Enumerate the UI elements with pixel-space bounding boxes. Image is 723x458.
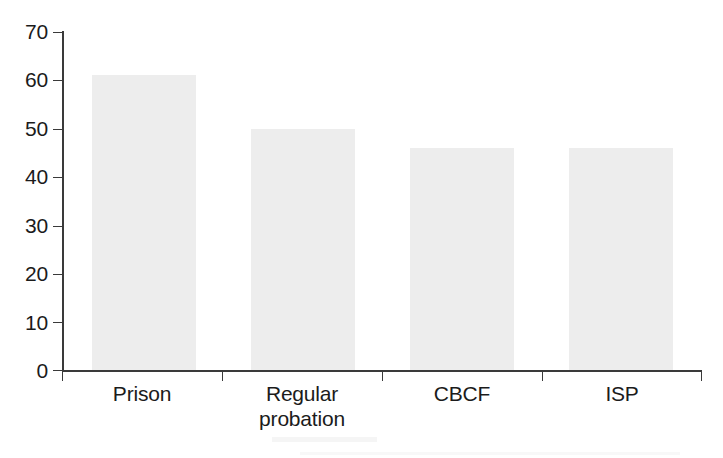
bar-chart-figure: 70 60 50 40 30 20 10 0 Prison Regular pr… bbox=[0, 0, 723, 458]
scan-artifact-2 bbox=[300, 452, 680, 455]
x-tick-mark-4 bbox=[701, 370, 702, 381]
x-tick-mark-3 bbox=[542, 370, 543, 381]
y-tick-label-0: 0 bbox=[4, 360, 48, 381]
scan-artifact-1 bbox=[272, 437, 377, 442]
x-tick-mark-0 bbox=[62, 370, 63, 381]
x-label-isp: ISP bbox=[542, 382, 702, 407]
x-label-regular-probation-line-2: probation bbox=[222, 407, 382, 432]
bar-isp bbox=[569, 148, 673, 370]
x-label-cbcf-line-1: CBCF bbox=[382, 382, 542, 407]
x-tick-mark-1 bbox=[222, 370, 223, 381]
x-tick-mark-2 bbox=[382, 370, 383, 381]
y-tick-label-30: 30 bbox=[4, 215, 48, 236]
x-label-prison-line-1: Prison bbox=[62, 382, 222, 407]
x-label-prison: Prison bbox=[62, 382, 222, 407]
y-tick-label-20: 20 bbox=[4, 263, 48, 284]
x-label-cbcf: CBCF bbox=[382, 382, 542, 407]
x-label-regular-probation: Regular probation bbox=[222, 382, 382, 432]
x-label-regular-probation-line-1: Regular bbox=[222, 382, 382, 407]
y-tick-label-60: 60 bbox=[4, 69, 48, 90]
bar-cbcf bbox=[410, 148, 514, 370]
bar-prison bbox=[92, 75, 196, 370]
x-label-isp-line-1: ISP bbox=[542, 382, 702, 407]
plot-area bbox=[62, 32, 702, 370]
y-tick-label-50: 50 bbox=[4, 118, 48, 139]
y-tick-label-40: 40 bbox=[4, 166, 48, 187]
y-tick-label-10: 10 bbox=[4, 312, 48, 333]
y-tick-label-70: 70 bbox=[4, 21, 48, 42]
bar-regular-probation bbox=[251, 129, 355, 370]
